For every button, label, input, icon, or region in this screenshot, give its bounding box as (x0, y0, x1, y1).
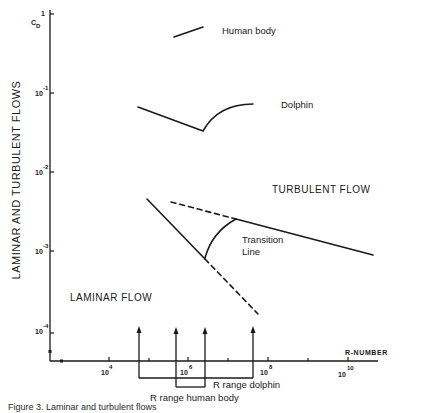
svg-text:6: 6 (189, 364, 193, 370)
human-body-line (174, 27, 203, 37)
arrow-heads (137, 326, 256, 334)
svg-text:8: 8 (269, 364, 273, 370)
human-body-label: Human body (222, 25, 276, 36)
transition-line (205, 219, 236, 258)
y-axis-label: LAMINAR AND TURBULENT FLOWS (10, 81, 22, 280)
x-tick-1e4: 10 (101, 369, 109, 376)
y-tick-1e-1: 10 (35, 90, 43, 97)
svg-text:-4: -4 (43, 323, 49, 329)
dolphin-line (138, 104, 253, 131)
svg-text:4: 4 (109, 364, 113, 370)
y-tick-1e-3: 10 (35, 248, 43, 255)
turbulent-dashed-extension (171, 202, 236, 219)
y-tick-1e-2: 10 (35, 169, 43, 176)
turbulent-flow-label: TURBULENT FLOW (272, 184, 371, 195)
y-tick-1: 1 (41, 10, 45, 17)
r-range-dolphin-label: R range dolphin (213, 379, 280, 390)
cd-symbol: C D (31, 19, 41, 29)
drag-coefficient-chart: 1 10 -1 10 -2 10 -3 10 -4 C D LAMINAR AN… (0, 0, 427, 413)
svg-text:-3: -3 (43, 243, 49, 249)
svg-text:10: 10 (347, 365, 354, 371)
y-tick-labels: 1 10 -1 10 -2 10 -3 10 -4 (35, 10, 49, 335)
laminar-dashed-extension (205, 259, 258, 314)
data-lines (138, 27, 373, 314)
x-tick-1e10: 10 (338, 371, 346, 378)
svg-text:-1: -1 (43, 85, 49, 91)
figure-caption: Figure 3. Laminar and turbulent flows (8, 402, 157, 412)
transition-label-line1: Transition (242, 234, 283, 245)
laminar-flow-label: LAMINAR FLOW (70, 292, 152, 303)
y-tick-1e-4: 10 (35, 328, 43, 335)
dolphin-label: Dolphin (281, 99, 313, 110)
x-tick-1e8: 10 (260, 369, 268, 376)
svg-text:D: D (36, 23, 41, 29)
laminar-line (147, 199, 205, 259)
x-ticks (60, 357, 348, 363)
y-ticks (49, 14, 55, 353)
x-axis-label: R-NUMBER (345, 349, 388, 356)
x-tick-1e6: 10 (180, 369, 188, 376)
svg-text:-2: -2 (43, 164, 49, 170)
transition-label-line2: Line (242, 246, 260, 257)
r-range-human-body-label: R range human body (150, 392, 239, 403)
